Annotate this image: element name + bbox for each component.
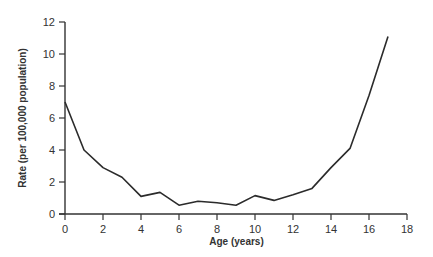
y-axis-title: Rate (per 100,000 population) <box>17 48 28 187</box>
y-tick-label: 2 <box>49 176 55 188</box>
y-tick-label: 0 <box>49 208 55 220</box>
x-axis: 024681012141618 <box>59 214 413 235</box>
x-tick-label: 0 <box>62 223 68 235</box>
x-tick-label: 4 <box>138 223 144 235</box>
y-axis: 024681012 <box>43 16 65 220</box>
y-tick-label: 10 <box>43 48 55 60</box>
y-tick-label: 8 <box>49 80 55 92</box>
x-tick-label: 18 <box>401 223 413 235</box>
rate-line <box>65 36 388 205</box>
y-tick-label: 4 <box>49 144 55 156</box>
x-tick-label: 2 <box>100 223 106 235</box>
y-tick-label: 6 <box>49 112 55 124</box>
x-tick-label: 6 <box>176 223 182 235</box>
x-tick-label: 8 <box>214 223 220 235</box>
y-tick-label: 12 <box>43 16 55 28</box>
line-chart: 024681012 024681012141618 Age (years) Ra… <box>0 0 433 257</box>
x-tick-label: 10 <box>249 223 261 235</box>
x-tick-label: 12 <box>287 223 299 235</box>
x-tick-label: 16 <box>363 223 375 235</box>
x-axis-title: Age (years) <box>209 236 263 247</box>
x-tick-label: 14 <box>325 223 337 235</box>
